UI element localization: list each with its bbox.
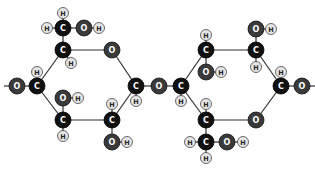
carbon-atom-label: C bbox=[109, 116, 115, 125]
hydrogen-atom: H bbox=[251, 62, 262, 73]
hydrogen-atom: H bbox=[176, 96, 187, 107]
hydrogen-atom: H bbox=[131, 96, 142, 107]
carbon-atom: C bbox=[173, 78, 189, 94]
oxygen-atom: O bbox=[151, 78, 167, 94]
hydrogen-atom-label: H bbox=[218, 69, 223, 77]
hydrogen-atom: H bbox=[122, 137, 133, 148]
carbon-atom: C bbox=[273, 78, 289, 94]
hydrogen-atom-label: H bbox=[203, 101, 208, 109]
hydrogen-atom: H bbox=[201, 30, 212, 41]
hydrogen-atom: H bbox=[185, 137, 196, 148]
oxygen-atom: O bbox=[294, 78, 310, 94]
hydrogen-atom-label: H bbox=[44, 25, 49, 33]
hydrogen-atom: H bbox=[201, 153, 212, 164]
oxygen-atom-label: O bbox=[14, 82, 21, 91]
hydrogen-atom-label: H bbox=[278, 69, 283, 77]
hydrogen-atom-label: H bbox=[253, 64, 258, 72]
hydrogen-atom-label: H bbox=[268, 26, 273, 34]
hydrogen-atom: H bbox=[58, 131, 69, 142]
hydrogen-atom-label: H bbox=[187, 139, 192, 147]
atoms: OCHCHCHHOHOCHOCOHHCHOHCHCHOHCOHHCHOOCHCH… bbox=[9, 8, 310, 164]
carbon-atom-label: C bbox=[203, 138, 209, 147]
hydrogen-atom: H bbox=[238, 137, 249, 148]
hydrogen-atom-label: H bbox=[68, 60, 73, 68]
carbon-atom-label: C bbox=[253, 46, 259, 55]
carbon-atom: C bbox=[198, 42, 214, 58]
hydrogen-atom-label: H bbox=[203, 155, 208, 163]
oxygen-atom: O bbox=[219, 134, 235, 150]
carbon-atom-label: C bbox=[178, 82, 184, 91]
carbon-atom: C bbox=[55, 20, 71, 36]
oxygen-atom-label: O bbox=[224, 138, 231, 147]
hydrogen-atom-label: H bbox=[109, 101, 114, 109]
hydrogen-atom: H bbox=[266, 24, 277, 35]
carbon-atom: C bbox=[29, 78, 45, 94]
hydrogen-atom-label: H bbox=[60, 133, 65, 141]
hydrogen-atom: H bbox=[216, 67, 227, 78]
carbon-atom: C bbox=[248, 42, 264, 58]
hydrogen-atom-label: H bbox=[96, 25, 101, 33]
carbon-atom: C bbox=[55, 112, 71, 128]
hydrogen-atom-label: H bbox=[240, 139, 245, 147]
carbon-atom: C bbox=[55, 42, 71, 58]
carbon-atom: C bbox=[128, 78, 144, 94]
carbon-atom-label: C bbox=[203, 116, 209, 125]
hydrogen-atom-label: H bbox=[34, 69, 39, 77]
oxygen-atom-label: O bbox=[60, 94, 67, 103]
oxygen-atom: O bbox=[76, 20, 92, 36]
oxygen-atom-label: O bbox=[253, 116, 260, 125]
carbon-atom: C bbox=[198, 112, 214, 128]
hydrogen-atom: H bbox=[94, 23, 105, 34]
oxygen-atom-label: O bbox=[109, 46, 116, 55]
carbon-atom-label: C bbox=[60, 46, 66, 55]
oxygen-atom: O bbox=[104, 42, 120, 58]
hydrogen-atom: H bbox=[66, 58, 77, 69]
oxygen-atom-label: O bbox=[156, 82, 163, 91]
hydrogen-atom: H bbox=[73, 93, 84, 104]
hydrogen-atom: H bbox=[32, 67, 43, 78]
oxygen-atom: O bbox=[248, 112, 264, 128]
oxygen-atom-label: O bbox=[253, 25, 260, 34]
hydrogen-atom-label: H bbox=[124, 139, 129, 147]
carbon-atom-label: C bbox=[203, 46, 209, 55]
hydrogen-atom-label: H bbox=[178, 98, 183, 106]
carbon-atom: C bbox=[198, 134, 214, 150]
carbon-atom-label: C bbox=[278, 82, 284, 91]
oxygen-atom: O bbox=[198, 64, 214, 80]
hydrogen-atom-label: H bbox=[133, 98, 138, 106]
oxygen-atom-label: O bbox=[81, 24, 88, 33]
hydrogen-atom: H bbox=[42, 23, 53, 34]
hydrogen-atom-label: H bbox=[203, 32, 208, 40]
oxygen-atom: O bbox=[104, 134, 120, 150]
oxygen-atom-label: O bbox=[299, 82, 306, 91]
oxygen-atom-label: O bbox=[109, 138, 116, 147]
oxygen-atom: O bbox=[9, 78, 25, 94]
carbon-atom: C bbox=[104, 112, 120, 128]
hydrogen-atom: H bbox=[276, 67, 287, 78]
oxygen-atom: O bbox=[248, 21, 264, 37]
hydrogen-atom: H bbox=[58, 8, 69, 19]
hydrogen-atom-label: H bbox=[60, 10, 65, 18]
carbon-atom-label: C bbox=[34, 82, 40, 91]
hydrogen-atom: H bbox=[201, 99, 212, 110]
carbon-atom-label: C bbox=[133, 82, 139, 91]
hydrogen-atom: H bbox=[107, 99, 118, 110]
carbon-atom-label: C bbox=[60, 116, 66, 125]
hydrogen-atom-label: H bbox=[75, 95, 80, 103]
oxygen-atom: O bbox=[55, 90, 71, 106]
oxygen-atom-label: O bbox=[203, 68, 210, 77]
carbon-atom-label: C bbox=[60, 24, 66, 33]
molecule-diagram: OCHCHCHHOHOCHOCOHHCHOHCHCHOHCOHHCHOOCHCH… bbox=[0, 0, 315, 174]
